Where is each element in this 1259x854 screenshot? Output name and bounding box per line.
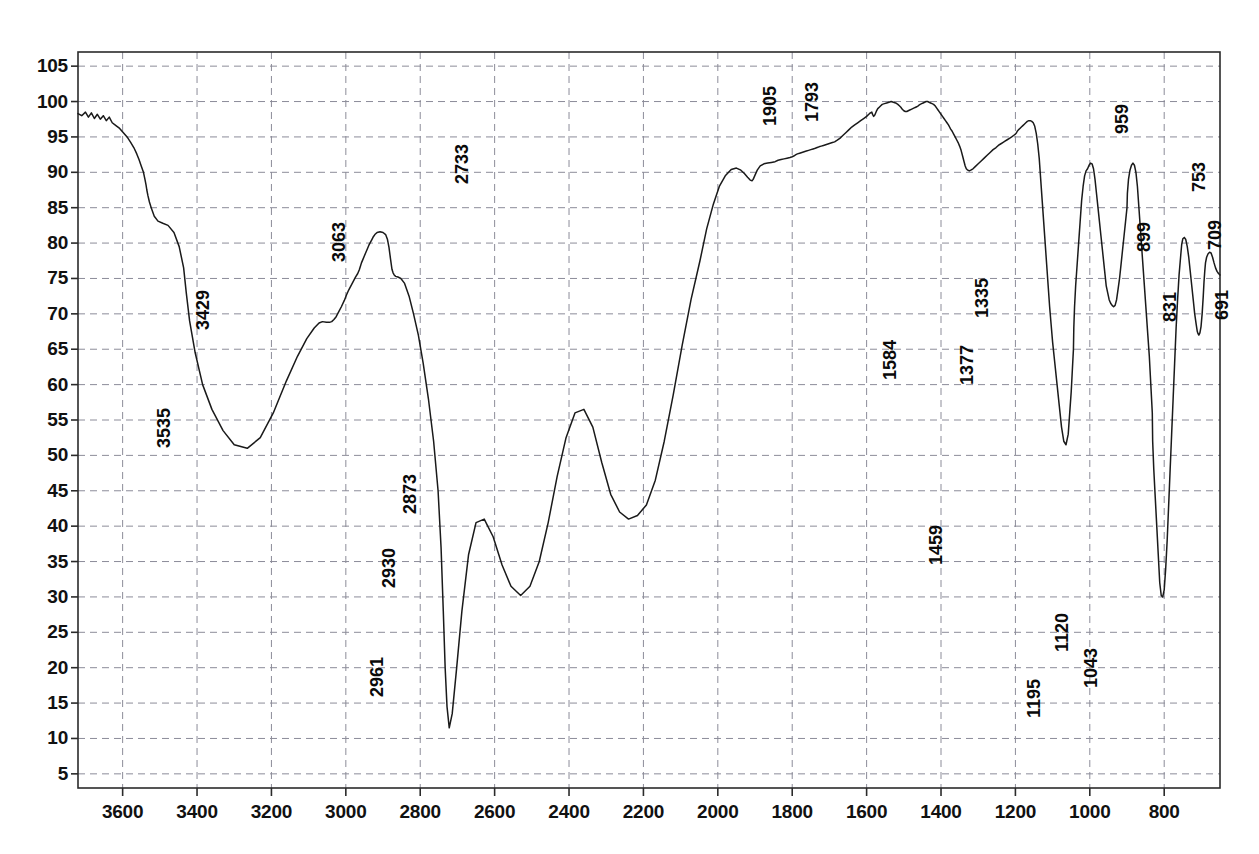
y-axis-tick-label: 75 xyxy=(20,267,68,289)
peak-label-831: 831 xyxy=(1160,292,1181,322)
peak-label-691: 691 xyxy=(1212,290,1233,320)
peak-label-2930: 2930 xyxy=(379,548,400,588)
peak-label-1377: 1377 xyxy=(957,345,978,385)
peak-label-2733: 2733 xyxy=(452,144,473,184)
y-axis-tick-label: 95 xyxy=(20,126,68,148)
y-axis-tick-label: 65 xyxy=(20,338,68,360)
peak-label-1905: 1905 xyxy=(760,86,781,126)
peak-label-1120: 1120 xyxy=(1052,613,1073,652)
y-axis-tick-label: 45 xyxy=(20,480,68,502)
y-axis-tick-label: 105 xyxy=(20,55,68,77)
y-axis-tick-label: 55 xyxy=(20,409,68,431)
x-axis-tick-label: 1600 xyxy=(832,801,902,823)
peak-label-709: 709 xyxy=(1205,220,1226,250)
y-axis-tick-label: 70 xyxy=(20,303,68,325)
x-axis-tick-label: 3200 xyxy=(236,801,306,823)
y-axis-tick-label: 100 xyxy=(20,91,68,113)
x-axis-tick-label: 1000 xyxy=(1055,801,1125,823)
y-axis-tick-label: 85 xyxy=(20,197,68,219)
x-axis-tick-label: 1400 xyxy=(906,801,976,823)
y-axis-tick-label: 80 xyxy=(20,232,68,254)
peak-label-3429: 3429 xyxy=(193,290,214,330)
peak-label-3535: 3535 xyxy=(154,408,175,448)
x-axis-tick-label: 3000 xyxy=(311,801,381,823)
y-axis-tick-label: 25 xyxy=(20,621,68,643)
x-axis-tick-label: 3400 xyxy=(162,801,232,823)
y-axis-tick-label: 10 xyxy=(20,727,68,749)
peak-label-1335: 1335 xyxy=(972,278,993,318)
peak-label-1043: 1043 xyxy=(1081,648,1102,688)
y-axis-tick-label: 50 xyxy=(20,444,68,466)
spectrum-curve xyxy=(78,102,1220,728)
peak-label-3063: 3063 xyxy=(329,222,350,262)
peak-label-753: 753 xyxy=(1189,162,1210,192)
y-axis-tick-label: 15 xyxy=(20,692,68,714)
peak-label-1459: 1459 xyxy=(926,525,947,565)
y-axis-tick-label: 60 xyxy=(20,374,68,396)
peak-label-2873: 2873 xyxy=(400,474,421,514)
x-axis-tick-label: 2400 xyxy=(534,801,604,823)
peak-label-899: 899 xyxy=(1134,222,1155,252)
spectrum-plot xyxy=(0,0,1259,854)
x-axis-tick-label: 1200 xyxy=(980,801,1050,823)
peak-label-2961: 2961 xyxy=(367,657,388,697)
peak-label-959: 959 xyxy=(1112,104,1133,134)
y-axis-tick-label: 30 xyxy=(20,586,68,608)
y-axis-tick-label: 35 xyxy=(20,551,68,573)
x-axis-tick-label: 2600 xyxy=(460,801,530,823)
y-axis-tick-label: 20 xyxy=(20,657,68,679)
peak-label-1195: 1195 xyxy=(1024,679,1045,718)
y-axis-tick-label: 40 xyxy=(20,515,68,537)
axis-ticks xyxy=(71,66,1164,796)
ir-spectrum-figure: 5101520253035404550556065707580859095100… xyxy=(0,0,1259,854)
x-axis-tick-label: 3600 xyxy=(88,801,158,823)
peak-label-1793: 1793 xyxy=(802,82,823,122)
y-axis-tick-label: 5 xyxy=(20,763,68,785)
peak-label-1584: 1584 xyxy=(880,340,901,380)
grid-lines xyxy=(78,52,1220,788)
x-axis-tick-label: 1800 xyxy=(757,801,827,823)
x-axis-tick-label: 2800 xyxy=(385,801,455,823)
x-axis-tick-label: 2200 xyxy=(608,801,678,823)
y-axis-tick-label: 90 xyxy=(20,161,68,183)
x-axis-tick-label: 800 xyxy=(1129,801,1199,823)
x-axis-tick-label: 2000 xyxy=(683,801,753,823)
